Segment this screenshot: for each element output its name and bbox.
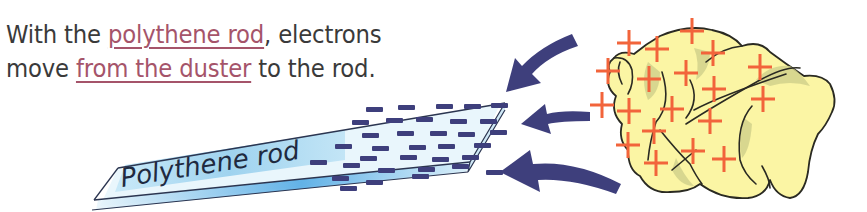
minus-icon bbox=[360, 156, 377, 161]
minus-icon bbox=[409, 145, 426, 150]
minus-icon bbox=[486, 170, 503, 175]
minus-icon bbox=[400, 155, 417, 160]
minus-icon bbox=[432, 157, 449, 162]
minus-icon bbox=[480, 119, 497, 124]
minus-icon bbox=[490, 130, 507, 135]
minus-icon bbox=[397, 131, 414, 136]
minus-icon bbox=[332, 176, 349, 181]
minus-icon bbox=[362, 133, 379, 138]
plus-icon bbox=[590, 92, 614, 118]
minus-icon bbox=[378, 168, 395, 173]
minus-icon bbox=[340, 186, 357, 191]
minus-icon bbox=[386, 118, 403, 123]
minus-icon bbox=[352, 120, 369, 125]
minus-icon bbox=[343, 163, 360, 168]
minus-icon bbox=[430, 131, 447, 136]
minus-icon bbox=[436, 104, 453, 109]
minus-icon bbox=[450, 119, 467, 124]
minus-icon bbox=[398, 105, 415, 110]
minus-icon bbox=[452, 164, 469, 169]
minus-icon bbox=[491, 103, 508, 108]
minus-icon bbox=[458, 132, 475, 137]
minus-icon bbox=[310, 160, 327, 165]
minus-icon bbox=[464, 104, 481, 109]
minus-icon bbox=[372, 146, 389, 151]
minus-icon bbox=[418, 167, 435, 172]
illustration: Polythene rod bbox=[0, 0, 867, 212]
minus-icon bbox=[335, 144, 352, 149]
arrow-left-icon bbox=[521, 104, 590, 134]
minus-icon bbox=[462, 155, 479, 160]
minus-icon bbox=[366, 107, 383, 112]
minus-icon bbox=[474, 143, 491, 148]
minus-icon bbox=[412, 174, 429, 179]
polythene-rod: Polythene rod bbox=[92, 103, 505, 210]
minus-icon bbox=[366, 180, 383, 185]
arrow-left-icon bbox=[500, 150, 621, 194]
arrow-left-icon bbox=[506, 34, 578, 92]
minus-icon bbox=[416, 117, 433, 122]
minus-icon bbox=[438, 144, 455, 149]
